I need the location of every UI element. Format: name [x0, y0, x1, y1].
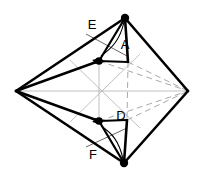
edge-apexA-to-inner-upper: [99, 61, 128, 62]
edge-top-to-left: [16, 18, 125, 91]
vertex-top-dot: [121, 14, 129, 22]
geometry-diagram-canvas: ADEF: [0, 0, 206, 187]
label-E: E: [88, 17, 97, 32]
axis-lines-group: [16, 54, 188, 128]
edge-bottom-to-left: [16, 91, 124, 163]
vertex-inner-lower-dot: [95, 117, 103, 125]
edge-bottom-to-apexD: [124, 120, 127, 163]
axis-diagonal-b: [70, 54, 140, 122]
geometry-figure: ADEF: [0, 0, 206, 187]
leader-F: [86, 128, 127, 147]
hidden-edge-apexA-to-right: [128, 62, 188, 91]
label-D: D: [116, 108, 125, 123]
label-F: F: [89, 147, 97, 162]
axis-diagonal-a: [70, 60, 140, 128]
label-A: A: [121, 37, 130, 52]
hidden-edge-apexD-to-right: [127, 91, 188, 120]
vertex-bottom-dot: [120, 159, 128, 167]
vertex-inner-upper-dot: [95, 57, 103, 65]
